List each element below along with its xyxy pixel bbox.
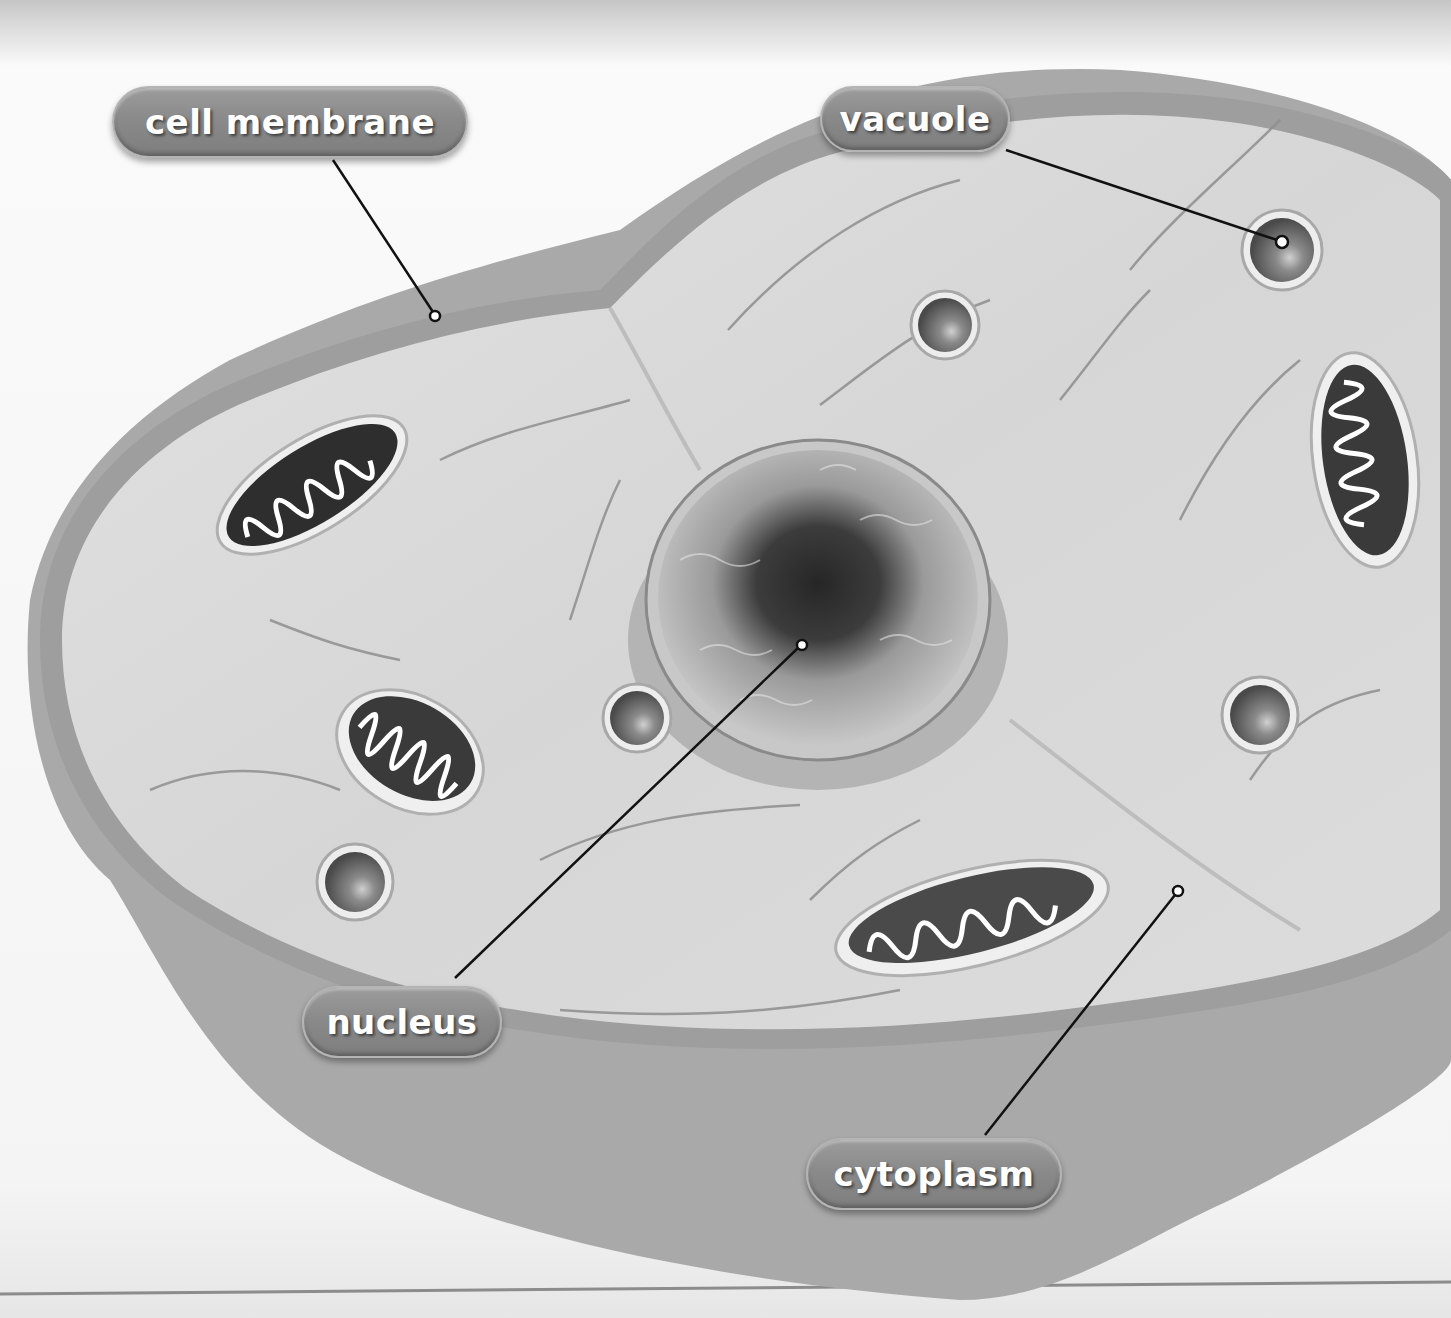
label-cell-membrane: cell membrane	[112, 86, 468, 158]
label-text: cell membrane	[145, 102, 435, 142]
label-text: cytoplasm	[833, 1154, 1034, 1194]
label-text: vacuole	[839, 99, 990, 139]
cell-diagram: cell membrane vacuole nucleus cytoplasm	[0, 0, 1451, 1318]
cell-illustration	[0, 0, 1451, 1318]
label-text: nucleus	[326, 1002, 477, 1042]
label-vacuole: vacuole	[820, 86, 1010, 152]
label-nucleus: nucleus	[302, 986, 502, 1058]
label-cytoplasm: cytoplasm	[806, 1138, 1062, 1210]
